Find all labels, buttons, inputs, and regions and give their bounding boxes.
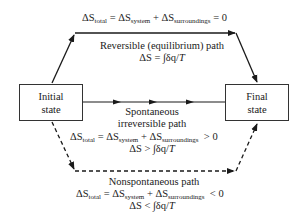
spontaneous-path-label-line2: irreversible path: [100, 118, 204, 130]
reversible-path-label: Reversible (equilibrium) path: [92, 40, 232, 52]
reversible-total-entropy-equation: ΔStotal = ΔSsystem + ΔSsurroundings = 0: [82, 12, 227, 24]
nonspontaneous-total-entropy-equation: ΔStotal = ΔSsystem + ΔSsurroundings < 0: [76, 188, 224, 200]
spontaneous-path-arrow: [82, 100, 225, 105]
spontaneous-path-label-line1: Spontaneous: [100, 106, 204, 118]
nonspontaneous-path-label: Nonspontaneous path: [92, 176, 216, 188]
reversible-entropy-relation: ΔS = ∫δq/T: [92, 52, 232, 64]
initial-state-label-line2: state: [41, 103, 60, 116]
spontaneous-total-entropy-equation: ΔStotal = ΔSsystem + ΔSsurroundings > 0: [70, 131, 218, 143]
spontaneous-entropy-relation: ΔS > ∫δq/T: [100, 143, 204, 155]
initial-state-box: Initial state: [19, 84, 83, 121]
entropy-paths-diagram: Initial state Final state ΔStotal = ΔSsy…: [0, 0, 299, 223]
final-state-box: Final state: [225, 84, 289, 121]
final-state-label-line1: Final: [246, 90, 268, 103]
final-state-label-line2: state: [247, 103, 266, 116]
nonspontaneous-entropy-relation: ΔS < ∫δq/T: [100, 200, 204, 212]
initial-state-label-line1: Initial: [38, 90, 63, 103]
